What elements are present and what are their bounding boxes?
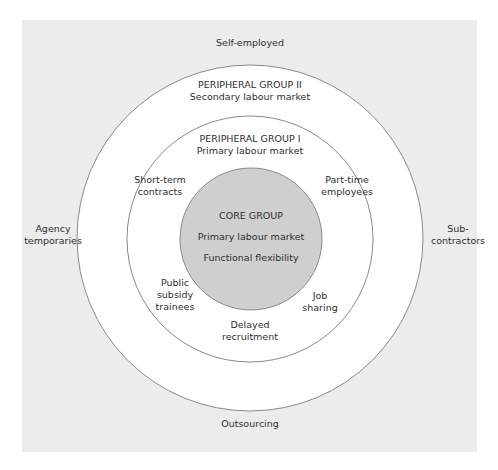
label-agency-temporaries: Agency temporaries xyxy=(18,223,88,247)
outer-ring-title: PERIPHERAL GROUP II xyxy=(170,79,330,91)
core-group-title: CORE GROUP xyxy=(181,210,321,222)
label-self-employed: Self-employed xyxy=(190,37,310,49)
label-job-sharing: Job sharing xyxy=(290,290,350,314)
label-part-time-employees: Part-time employees xyxy=(312,174,382,198)
label-public-subsidy-trainees: Public subsidy trainees xyxy=(140,277,210,313)
outer-ring-subtitle: Secondary labour market xyxy=(170,91,330,103)
core-group-line-primary-labour-market: Primary labour market xyxy=(181,231,321,243)
label-short-term-contracts: Short-term contracts xyxy=(125,174,195,198)
middle-ring-subtitle: Primary labour market xyxy=(170,145,330,157)
core-group-line-functional-flexibility: Functional flexibility xyxy=(181,252,321,264)
middle-ring-title: PERIPHERAL GROUP I xyxy=(170,133,330,145)
label-sub-contractors: Sub- contractors xyxy=(418,223,498,247)
label-outsourcing: Outsourcing xyxy=(190,418,310,430)
label-delayed-recruitment: Delayed recruitment xyxy=(205,319,295,343)
